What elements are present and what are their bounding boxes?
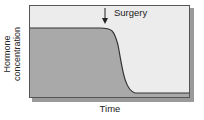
hormone-curve xyxy=(0,0,204,120)
y-axis-label-line2: concentration xyxy=(12,14,22,94)
down-arrow-icon xyxy=(102,8,108,24)
x-axis-label: Time xyxy=(29,103,191,114)
y-axis-label: Hormone concentration xyxy=(2,14,22,94)
surgery-annotation: Surgery xyxy=(114,7,147,18)
y-axis-label-line1: Hormone xyxy=(2,14,12,94)
